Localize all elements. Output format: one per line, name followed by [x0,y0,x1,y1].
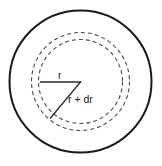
label-r: r [58,70,62,81]
label-r-plus-dr: r + dr [68,93,93,105]
figure-container: r r + dr [0,0,162,166]
concentric-shell-diagram: r r + dr [0,0,162,166]
